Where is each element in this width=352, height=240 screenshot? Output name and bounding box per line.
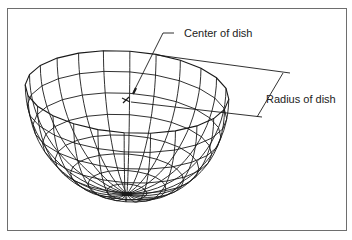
center-leader-arrow [133, 88, 136, 94]
radius-of-dish-label: Radius of dish [266, 94, 336, 105]
wireframe-line [40, 65, 127, 194]
wireframe-line [127, 78, 217, 194]
wireframe-line [25, 51, 229, 134]
wireframe-line [127, 60, 180, 194]
dish-wireframe [0, 0, 352, 240]
wireframe-line [127, 51, 130, 194]
wireframe-line [57, 58, 127, 194]
center-of-dish-label: Center of dish [184, 28, 252, 39]
wireframe-line [30, 75, 128, 195]
wireframe-line [127, 131, 175, 201]
wireframe-line [127, 126, 197, 200]
radius-extension-line-top [157, 55, 290, 73]
center-marker-icon [123, 97, 129, 103]
dish-bottom-pole [122, 192, 132, 196]
wireframe-line [27, 71, 227, 152]
center-leader-line [134, 33, 163, 91]
